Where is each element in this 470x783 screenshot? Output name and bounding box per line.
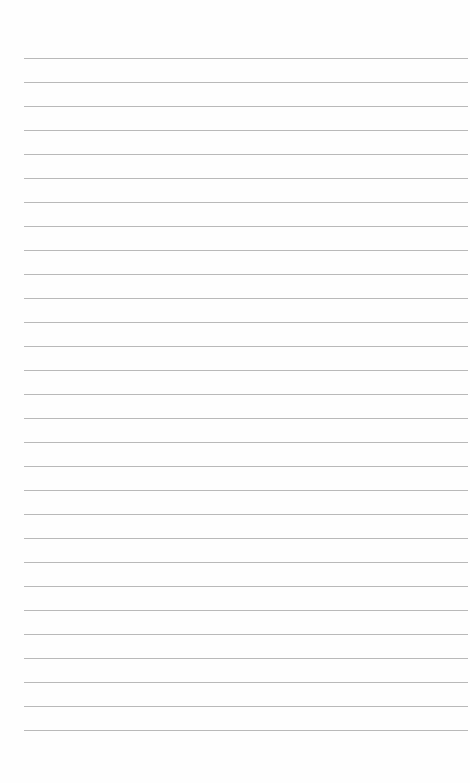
ruled-line bbox=[24, 322, 468, 323]
ruled-line bbox=[24, 370, 468, 371]
ruled-line bbox=[24, 274, 468, 275]
ruled-line bbox=[24, 106, 468, 107]
ruled-line bbox=[24, 586, 468, 587]
ruled-line bbox=[24, 730, 468, 731]
lined-paper-sheet bbox=[0, 0, 470, 783]
ruled-line bbox=[24, 658, 468, 659]
ruled-line bbox=[24, 130, 468, 131]
ruled-line bbox=[24, 466, 468, 467]
ruled-line bbox=[24, 610, 468, 611]
ruled-line bbox=[24, 298, 468, 299]
ruled-line bbox=[24, 490, 468, 491]
ruled-line bbox=[24, 682, 468, 683]
ruled-line bbox=[24, 562, 468, 563]
ruled-line bbox=[24, 394, 468, 395]
ruled-line bbox=[24, 634, 468, 635]
ruled-line bbox=[24, 418, 468, 419]
ruled-line bbox=[24, 58, 468, 59]
ruled-line bbox=[24, 442, 468, 443]
ruled-line bbox=[24, 346, 468, 347]
ruled-line bbox=[24, 706, 468, 707]
ruled-line bbox=[24, 154, 468, 155]
ruled-line bbox=[24, 178, 468, 179]
ruled-line bbox=[24, 250, 468, 251]
ruled-line bbox=[24, 538, 468, 539]
ruled-line bbox=[24, 226, 468, 227]
ruled-line bbox=[24, 202, 468, 203]
ruled-line bbox=[24, 514, 468, 515]
ruled-line bbox=[24, 82, 468, 83]
